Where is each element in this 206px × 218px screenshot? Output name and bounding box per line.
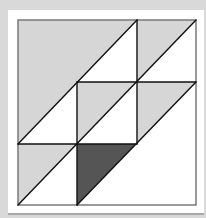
triangle-grid-figure bbox=[0, 0, 206, 218]
